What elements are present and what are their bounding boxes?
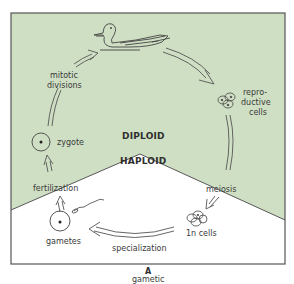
life-cycle-diagram: [0, 0, 294, 284]
label-ductive: ductive: [241, 98, 271, 107]
label-specialization: specialization: [112, 244, 167, 253]
label-haploid: HAPLOID: [120, 157, 166, 166]
label-mitotic: mitotic: [50, 71, 78, 80]
label-zygote: zygote: [57, 138, 84, 147]
label-fertilization: fertilization: [33, 184, 78, 193]
label-divisions: divisions: [47, 81, 82, 90]
label-repro: repro-: [243, 88, 267, 97]
label-cells: cells: [249, 108, 267, 117]
label-gametes: gametes: [46, 237, 81, 246]
label-1n-cells: 1n cells: [186, 229, 217, 238]
label-meiosis: meiosis: [206, 185, 236, 194]
panel-caption: gametic: [132, 275, 164, 284]
label-diploid: DIPLOID: [122, 132, 165, 141]
